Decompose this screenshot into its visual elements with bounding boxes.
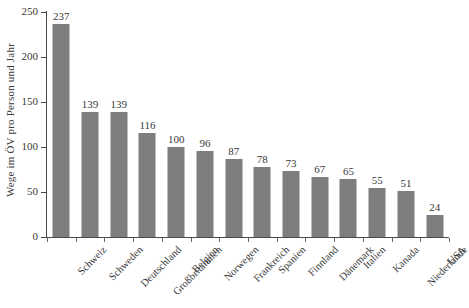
bar-value-label: 100 — [168, 134, 185, 145]
bar-group: 100 — [162, 12, 191, 237]
bar-group: 139 — [104, 12, 133, 237]
bar-group: 65 — [334, 12, 363, 237]
bar-value-label: 67 — [314, 164, 325, 175]
y-axis-tick-label: 150 — [12, 96, 38, 107]
x-axis-tick — [334, 238, 335, 242]
bar-value-label: 139 — [82, 99, 99, 110]
x-axis-tick — [76, 238, 77, 242]
x-axis-tick — [133, 238, 134, 242]
bar-group: 237 — [47, 12, 76, 237]
x-axis-tick — [420, 238, 421, 242]
x-axis-line — [41, 237, 449, 238]
bar-value-label: 24 — [429, 202, 440, 213]
bar-group: 87 — [219, 12, 248, 237]
x-axis-label: Kanada — [391, 244, 421, 274]
x-axis-label: Schweden — [107, 244, 145, 282]
bar — [196, 151, 213, 237]
bar-value-label: 55 — [372, 175, 383, 186]
bar-group: 55 — [363, 12, 392, 237]
x-axis-tick — [363, 238, 364, 242]
x-axis-tick — [162, 238, 163, 242]
y-axis-title: Wege im ÖV pro Person und Jahr — [0, 0, 20, 240]
x-axis-tick — [248, 238, 249, 242]
bar-value-label: 116 — [139, 120, 155, 131]
x-axis-tick — [104, 238, 105, 242]
bar — [369, 188, 386, 238]
x-axis-tick — [219, 238, 220, 242]
bar — [53, 24, 70, 237]
bar-value-label: 96 — [199, 138, 210, 149]
bar-value-label: 73 — [286, 158, 297, 169]
x-axis-tick — [392, 238, 393, 242]
x-axis-label: Finnland — [306, 244, 340, 278]
bar-value-label: 51 — [400, 178, 411, 189]
x-axis-tick — [47, 238, 48, 242]
bar-value-label: 78 — [257, 154, 268, 165]
bar — [426, 215, 443, 237]
bar — [311, 177, 328, 237]
y-axis-tick-label: 0 — [12, 231, 38, 242]
y-axis-tick-label: 250 — [12, 6, 38, 17]
plot-area: 237139139116100968778736765555124 — [47, 12, 449, 237]
bar — [340, 179, 357, 238]
bar — [139, 133, 156, 237]
bar-group: 24 — [420, 12, 449, 237]
y-axis-title-label: Wege im ÖV pro Person und Jahr — [4, 43, 16, 197]
bar-group: 139 — [76, 12, 105, 237]
x-axis-tick — [277, 238, 278, 242]
bar-group: 73 — [277, 12, 306, 237]
bar-group: 116 — [133, 12, 162, 237]
x-axis-tick — [449, 238, 450, 242]
y-axis-tick-label: 50 — [12, 186, 38, 197]
x-axis-tick — [191, 238, 192, 242]
bar-group: 96 — [191, 12, 220, 237]
x-axis-tick — [305, 238, 306, 242]
bar-value-label: 65 — [343, 166, 354, 177]
bar — [397, 191, 414, 237]
bar-group: 78 — [248, 12, 277, 237]
y-axis-tick-label: 100 — [12, 141, 38, 152]
bar — [110, 112, 127, 237]
bar — [82, 112, 99, 237]
bar-value-label: 237 — [53, 11, 70, 22]
bar-value-label: 87 — [228, 146, 239, 157]
bar — [225, 159, 242, 237]
y-axis-tick-label: 200 — [12, 51, 38, 62]
bar-group: 51 — [392, 12, 421, 237]
bar — [254, 167, 271, 237]
x-axis-label: Schweiz — [76, 244, 109, 277]
bar — [283, 171, 300, 237]
bar — [168, 147, 185, 237]
bar-value-label: 139 — [111, 99, 128, 110]
bar-group: 67 — [305, 12, 334, 237]
